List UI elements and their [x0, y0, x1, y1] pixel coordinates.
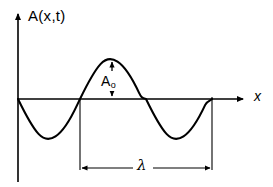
- amplitude-label-base: A: [101, 73, 110, 89]
- y-axis-label: A(x,t): [28, 8, 66, 23]
- x-axis-label: x: [254, 89, 261, 103]
- wave-diagram: A(x,t) x Ao λ: [0, 0, 273, 187]
- amplitude-label-subscript: o: [111, 80, 116, 90]
- wavelength-label: λ: [137, 158, 147, 173]
- amplitude-label: Ao: [101, 74, 115, 88]
